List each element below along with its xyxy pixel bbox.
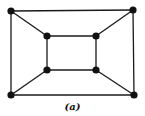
graph-node-inner-tl	[43, 32, 50, 39]
graph-node-outer-tl	[7, 7, 14, 14]
graph-node-inner-br	[92, 66, 99, 73]
graph-node-outer-tr	[129, 6, 136, 13]
graph-node-outer-br	[130, 91, 137, 98]
graph-edge	[96, 70, 134, 95]
graph-node-inner-bl	[43, 66, 50, 73]
graph-edge	[11, 70, 47, 95]
graph-edge	[133, 10, 134, 95]
graph-edge	[11, 11, 47, 36]
graph-diagram	[0, 0, 145, 116]
graph-edge	[96, 10, 133, 36]
graph-node-inner-tr	[92, 32, 99, 39]
figure-caption: (a)	[0, 101, 145, 112]
graph-node-outer-bl	[7, 91, 14, 98]
graph-edge	[11, 10, 133, 11]
graph-edges	[11, 10, 134, 95]
